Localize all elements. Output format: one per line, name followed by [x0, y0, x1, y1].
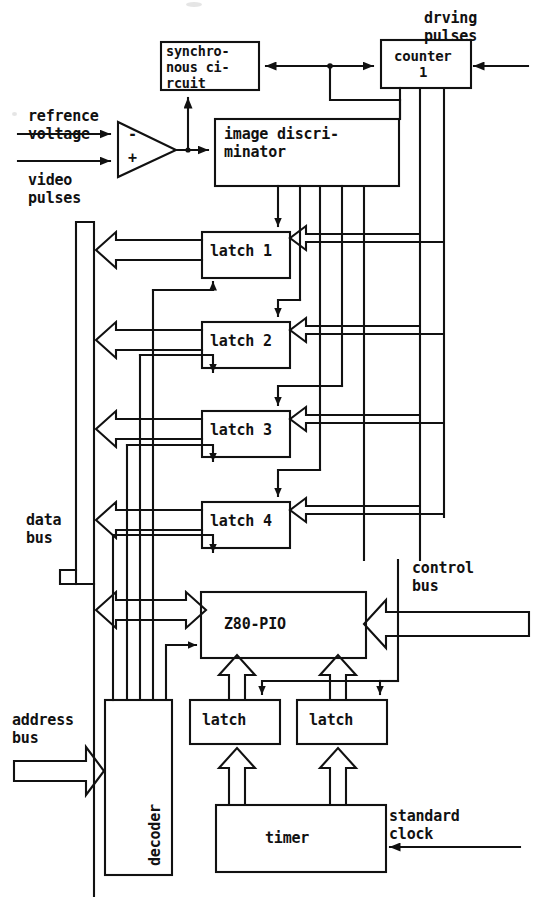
latch4-label: latch 4 — [210, 513, 272, 531]
comparator-triangle — [118, 122, 176, 177]
data-bus-label: databus — [26, 512, 61, 547]
standard-clock-label: standardclock — [389, 808, 460, 843]
data-bus-channel — [60, 222, 94, 584]
timer-label: timer — [265, 830, 309, 848]
counter-label: counter — [394, 48, 452, 65]
pio-to-latch-a-strobe — [262, 681, 324, 694]
latch3-input-arrow-upper — [290, 407, 418, 419]
latch3-to-databus-arrow — [96, 411, 202, 447]
latch1-input-arrow-upper — [290, 226, 418, 238]
scan-artifact — [12, 112, 17, 116]
timer-to-latch-b-arrow — [320, 748, 356, 805]
latch1-to-databus-arrow — [96, 232, 202, 268]
latch3-strobe-elbow — [278, 386, 342, 405]
latch2-input-arrow-upper — [290, 318, 418, 330]
video-pulses-label: videopulses — [28, 172, 81, 207]
z80-pio-label: Z80-PIO — [224, 616, 286, 634]
scan-artifact — [186, 2, 202, 7]
address-bus-arrow — [14, 747, 104, 795]
comparator-minus-sign: - — [128, 126, 137, 144]
control-bus-label: controlbus — [412, 560, 474, 595]
latch2-strobe-elbow — [278, 300, 300, 316]
decoder-label: decoder — [147, 804, 165, 866]
timer-to-latch-a-arrow — [219, 748, 255, 805]
counter-index-label: 1 — [419, 64, 427, 81]
latch4-input-arrow-upper — [290, 498, 418, 510]
address-bus-label: addressbus — [12, 712, 74, 747]
comparator-plus-sign: + — [128, 150, 137, 168]
drving-pulses-label: drvingpulses — [424, 10, 477, 45]
latch-b-label: latch — [309, 712, 353, 730]
diagram-canvas: synchro-nous ci-rcuit counter 1 image di… — [0, 0, 541, 897]
latch1-select-elbow — [153, 282, 213, 290]
latch4-to-databus-arrow — [96, 502, 202, 538]
latch2-to-databus-arrow — [96, 322, 202, 358]
refrence-voltage-label: refrencevoltage — [28, 108, 99, 143]
sync-circuit-label: synchro-nous ci-rcuit — [166, 44, 229, 92]
latch-a-to-pio-arrow — [219, 655, 255, 700]
latch1-label: latch 1 — [210, 243, 272, 261]
latch4-strobe-elbow — [278, 470, 320, 496]
latch2-label: latch 2 — [210, 333, 272, 351]
image-discriminator-label: image discri-minator — [224, 126, 339, 161]
latch-b-to-pio-arrow — [320, 655, 356, 700]
latch-a-label: latch — [202, 712, 246, 730]
discriminator-riser-to-counter — [330, 66, 400, 119]
latch3-label: latch 3 — [210, 422, 272, 440]
control-bus-arrow — [364, 600, 529, 648]
control-bus-drop-line — [324, 560, 398, 681]
decoder-to-pio-line — [166, 645, 196, 700]
